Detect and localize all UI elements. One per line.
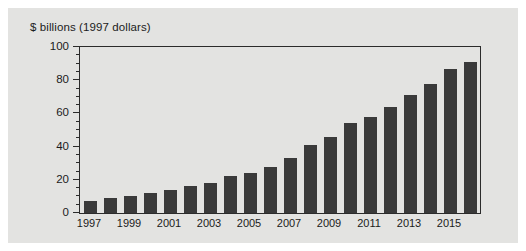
y-axis-major-tick <box>73 212 80 213</box>
x-axis-tick-label: 2001 <box>157 217 181 229</box>
bar <box>384 107 397 213</box>
x-axis-tick-label: 2007 <box>277 217 301 229</box>
y-axis-tick-label: 20 <box>56 173 69 185</box>
bar <box>244 173 257 213</box>
bar <box>184 186 197 213</box>
y-axis-tick-label: 100 <box>50 40 69 52</box>
y-axis: 020406080100 <box>79 46 80 212</box>
y-axis-tick-label: 60 <box>56 106 69 118</box>
y-axis-minor-tick <box>76 195 80 196</box>
x-axis-tick-label: 2013 <box>397 217 421 229</box>
y-axis-minor-tick <box>76 204 80 205</box>
y-axis-major-tick <box>73 112 80 113</box>
bar <box>284 158 297 213</box>
bar <box>144 193 157 213</box>
x-axis-tick-label: 1997 <box>77 217 101 229</box>
chart-title: $ billions (1997 dollars) <box>30 21 151 33</box>
x-axis-tick-label: 2003 <box>197 217 221 229</box>
y-axis-minor-tick <box>76 63 80 64</box>
bar-series <box>80 47 480 213</box>
bar <box>224 176 237 213</box>
bar <box>444 69 457 213</box>
x-axis-tick-label: 2009 <box>317 217 341 229</box>
bar <box>164 190 177 213</box>
bar <box>104 198 117 213</box>
bar <box>84 201 97 213</box>
y-axis-minor-tick <box>76 104 80 105</box>
bar <box>204 183 217 213</box>
bar <box>344 123 357 213</box>
bar <box>124 196 137 213</box>
x-axis-tick-label: 2011 <box>357 217 381 229</box>
y-axis-tick-label: 80 <box>56 73 69 85</box>
y-axis-tick-label: 40 <box>56 140 69 152</box>
bar <box>324 137 337 213</box>
y-axis-minor-tick <box>76 154 80 155</box>
y-axis-major-tick <box>73 79 80 80</box>
bar <box>464 62 477 213</box>
y-axis-minor-tick <box>76 187 80 188</box>
bar <box>424 84 437 213</box>
y-axis-minor-tick <box>76 96 80 97</box>
y-axis-minor-tick <box>76 171 80 172</box>
bar <box>264 167 277 213</box>
y-axis-major-tick <box>73 146 80 147</box>
y-axis-tick-label: 0 <box>63 206 69 218</box>
y-axis-minor-tick <box>76 54 80 55</box>
plot-area <box>79 46 481 214</box>
y-axis-major-tick <box>73 179 80 180</box>
y-axis-major-tick <box>73 46 80 47</box>
y-axis-minor-tick <box>76 71 80 72</box>
bar <box>304 145 317 213</box>
chart-figure: $ billions (1997 dollars) 020406080100 1… <box>0 0 526 251</box>
y-axis-minor-tick <box>76 129 80 130</box>
y-axis-minor-tick <box>76 121 80 122</box>
y-axis-minor-tick <box>76 137 80 138</box>
y-axis-minor-tick <box>76 162 80 163</box>
bar <box>404 95 417 213</box>
x-axis-tick-label: 2015 <box>437 217 461 229</box>
bar <box>364 117 377 213</box>
y-axis-minor-tick <box>76 88 80 89</box>
x-axis-tick-label: 1999 <box>117 217 141 229</box>
x-axis-tick-label: 2005 <box>237 217 261 229</box>
